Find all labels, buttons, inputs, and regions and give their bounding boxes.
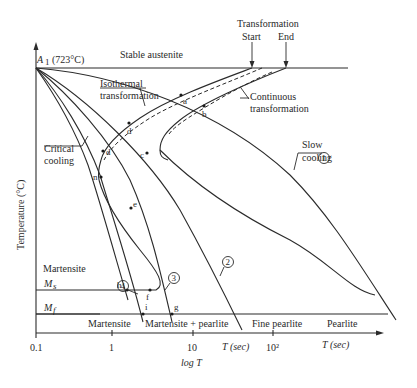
ms-label: M: [43, 278, 53, 289]
curve-3-number: 3: [172, 273, 177, 283]
point-d-upper: [127, 121, 130, 124]
x-axis-arrow-icon: [376, 331, 384, 336]
x-tick-label-0.1: 0.1: [30, 342, 43, 353]
transformation-end-curve: [160, 68, 286, 160]
point-i: [141, 312, 144, 315]
point-d-lower: [101, 149, 104, 152]
label-g: g: [174, 302, 179, 312]
label-d-lower: d: [106, 147, 111, 157]
x-tick-label-1: 1: [109, 342, 114, 353]
isothermal-label-1: Isothermal: [100, 78, 143, 89]
start-arrow-icon: [250, 61, 255, 68]
x-tick-label-10: 10: [187, 342, 197, 353]
label-a: a: [183, 96, 187, 106]
start-label: Start: [242, 31, 261, 42]
x-tick-label-100: 10²: [266, 342, 279, 353]
stable-austenite-label: Stable austenite: [120, 49, 184, 60]
end-arrow-icon: [284, 61, 289, 68]
transformation-label: Transformation: [237, 18, 299, 29]
product-pearlite: Pearlite: [327, 318, 358, 329]
y-axis-label: Temperature (°C): [15, 180, 27, 250]
continuous-label-1: Continuous: [250, 91, 296, 102]
critical-label-1: Critical: [44, 143, 74, 154]
continuous-label-2: transformation: [250, 103, 309, 114]
curve-4-number: 4: [121, 281, 126, 291]
label-d-upper: d: [127, 126, 132, 136]
point-n: [99, 175, 102, 178]
cooling-curve-1: [36, 68, 396, 320]
slow-label-2: cooling: [302, 152, 332, 163]
y-axis-arrow-icon: [34, 42, 39, 50]
continuous-leader: [241, 88, 249, 99]
a1-temp-label: (723°C): [52, 54, 84, 66]
product-martensite-pearlite: Martensite + pearlite: [145, 318, 229, 329]
critical-label-2: cooling: [44, 155, 74, 166]
product-fine-pearlite: Fine pearlite: [252, 318, 303, 329]
pearlite-end-curve: [160, 150, 375, 295]
curve-2-number: 2: [226, 257, 231, 267]
martensite-region-label: Martensite: [43, 263, 86, 274]
label-i: i: [145, 302, 148, 312]
label-c: c: [140, 150, 144, 160]
x-axis-label: log T: [181, 357, 203, 368]
curve-2-leader: [220, 267, 224, 276]
point-c: [145, 151, 148, 154]
label-e: e: [133, 199, 137, 209]
a1-sub: 1: [45, 57, 50, 67]
label-n: n: [93, 172, 98, 182]
slow-label-1: Slow: [302, 139, 323, 150]
isothermal-label-2: transformation: [100, 90, 159, 101]
point-g: [170, 312, 173, 315]
mf-label: M: [43, 302, 53, 313]
t-sec-label-2: T (sec): [322, 339, 350, 351]
ms-sub: s: [53, 281, 57, 291]
curve-3-leader: [165, 283, 170, 290]
point-b: [202, 104, 205, 107]
a1-label: A: [36, 54, 44, 65]
t-sec-label-1: T (sec): [222, 341, 250, 353]
slow-leader: [294, 153, 298, 170]
product-martensite: Martensite: [88, 318, 131, 329]
cct-diagram: Transformation Start End Stable austenit…: [0, 0, 417, 388]
cooling-curve-2: [36, 68, 242, 330]
label-f: f: [146, 292, 149, 302]
curve-4-leader: [128, 290, 138, 294]
end-label: End: [278, 31, 294, 42]
label-b: b: [202, 109, 207, 119]
curve-1-number: 1: [322, 153, 327, 163]
